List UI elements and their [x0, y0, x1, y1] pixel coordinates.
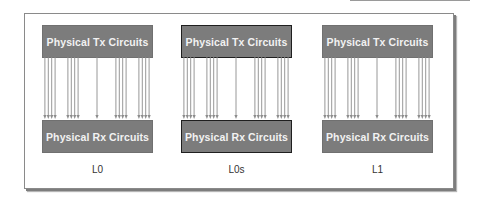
state-label: L1: [322, 164, 433, 175]
lane-arrows: [181, 57, 292, 120]
rx-circuits-box: Physical Rx Circuits: [181, 120, 292, 153]
panel-l0s: Physical Tx Circuits Physical Rx Circuit…: [181, 0, 292, 200]
tx-circuits-box: Physical Tx Circuits: [181, 25, 292, 58]
tx-circuits-box: Physical Tx Circuits: [322, 25, 433, 58]
rx-circuits-box: Physical Rx Circuits: [322, 120, 433, 153]
state-label: L0: [42, 164, 153, 175]
state-label: L0s: [181, 164, 292, 175]
panel-l1: Physical Tx Circuits Physical Rx Circuit…: [322, 0, 433, 200]
rx-circuits-box: Physical Rx Circuits: [42, 120, 153, 153]
lane-arrows: [322, 57, 433, 120]
lane-arrows: [42, 57, 153, 120]
tx-circuits-box: Physical Tx Circuits: [42, 25, 153, 58]
panel-l0: Physical Tx Circuits Physical Rx Circuit…: [42, 0, 153, 200]
